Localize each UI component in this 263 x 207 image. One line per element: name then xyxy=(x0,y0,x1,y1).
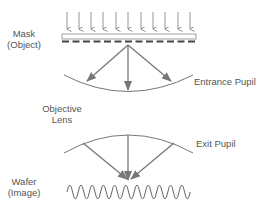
mask-plate xyxy=(62,34,196,39)
illumination-arrows xyxy=(67,12,190,29)
entrance-pupil-label: Entrance Pupil xyxy=(194,76,256,87)
diffracted-rays xyxy=(87,45,171,90)
objective-lens-label-line1: Objective xyxy=(35,103,89,114)
mask-label: Mask (Object) xyxy=(4,28,44,50)
converging-rays xyxy=(83,135,174,180)
wafer-label-line1: Wafer xyxy=(4,176,44,187)
objective-lens-label-line2: Lens xyxy=(35,114,89,125)
exit-pupil-label: Exit Pupil xyxy=(196,138,236,149)
image-intensity-wave xyxy=(67,185,190,199)
wafer-label: Wafer (Image) xyxy=(4,176,44,198)
mask-label-line1: Mask xyxy=(4,28,44,39)
objective-lens-label: Objective Lens xyxy=(35,103,89,125)
mask-label-line2: (Object) xyxy=(4,39,44,50)
wafer-label-line2: (Image) xyxy=(4,187,44,198)
